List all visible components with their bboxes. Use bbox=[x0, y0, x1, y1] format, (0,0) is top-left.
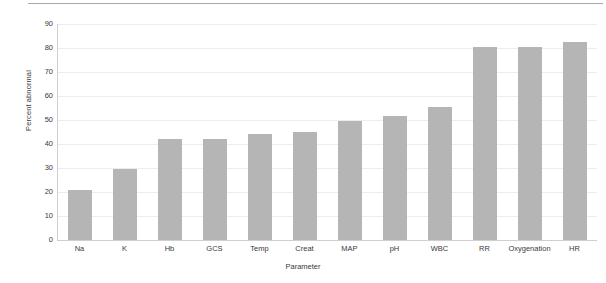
x-tick-label-hr: HR bbox=[552, 244, 597, 253]
x-tick-label-hb: Hb bbox=[147, 244, 192, 253]
bar-ph bbox=[383, 116, 407, 240]
x-tick-label-oxygenation: Oxygenation bbox=[507, 244, 552, 253]
y-tick-label-90: 90 bbox=[7, 20, 53, 28]
bars-group bbox=[57, 24, 597, 240]
x-tick-label-creat: Creat bbox=[282, 244, 327, 253]
bar-temp bbox=[248, 134, 272, 240]
y-tick-label-30: 30 bbox=[7, 164, 53, 172]
x-axis-spine bbox=[57, 240, 597, 241]
x-axis-tick-labels: NaKHbGCSTempCreatMAPpHWBCRROxygenationHR bbox=[57, 244, 597, 258]
y-axis-tick-labels: 0102030405060708090 bbox=[0, 24, 53, 241]
y-tick-label-40: 40 bbox=[7, 140, 53, 148]
y-tick-label-70: 70 bbox=[7, 68, 53, 76]
bar-wbc bbox=[428, 107, 452, 240]
bar-na bbox=[68, 190, 92, 240]
x-tick-label-k: K bbox=[102, 244, 147, 253]
bar-chart-figure: Percent abnormal 0102030405060708090 NaK… bbox=[0, 0, 606, 283]
y-tick-label-0: 0 bbox=[7, 236, 53, 244]
x-tick-label-wbc: WBC bbox=[417, 244, 462, 253]
x-axis-title: Parameter bbox=[0, 262, 606, 271]
x-tick-label-temp: Temp bbox=[237, 244, 282, 253]
bar-rr bbox=[473, 47, 497, 240]
figure-top-rule bbox=[28, 3, 603, 4]
x-tick-label-ph: pH bbox=[372, 244, 417, 253]
y-tick-label-60: 60 bbox=[7, 92, 53, 100]
y-tick-label-20: 20 bbox=[7, 188, 53, 196]
y-tick-label-50: 50 bbox=[7, 116, 53, 124]
x-tick-label-map: MAP bbox=[327, 244, 372, 253]
bar-oxygenation bbox=[518, 47, 542, 240]
bar-map bbox=[338, 121, 362, 240]
bar-k bbox=[113, 169, 137, 240]
bar-hb bbox=[158, 139, 182, 240]
y-tick-label-10: 10 bbox=[7, 212, 53, 220]
bar-hr bbox=[563, 42, 587, 240]
bar-creat bbox=[293, 132, 317, 240]
bar-gcs bbox=[203, 139, 227, 240]
x-tick-label-rr: RR bbox=[462, 244, 507, 253]
x-tick-label-gcs: GCS bbox=[192, 244, 237, 253]
x-tick-label-na: Na bbox=[57, 244, 102, 253]
y-tick-label-80: 80 bbox=[7, 44, 53, 52]
